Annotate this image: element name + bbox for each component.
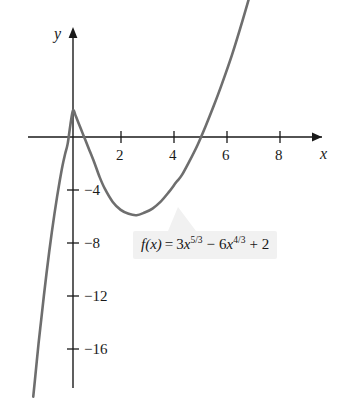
equation-plus: + (249, 236, 257, 252)
x-tick-label-6: 6 (222, 148, 230, 163)
callout-pointer (168, 207, 196, 231)
equation-fx: f(x) (141, 236, 162, 252)
plot-canvas (0, 0, 342, 403)
equation-term2-exponent: 4/3 (233, 235, 245, 245)
equation-equals: = (165, 236, 173, 252)
equation-callout: f(x)=3x5/3−6x4/3+2 (133, 231, 277, 259)
y-tick-label-minus8: −8 (84, 236, 100, 251)
x-tick-label-8: 8 (275, 148, 283, 163)
y-tick-label-minus4: −4 (84, 183, 100, 198)
x-tick-label-4: 4 (169, 148, 177, 163)
equation-term1-coef: 3 (176, 236, 184, 252)
y-tick-label-minus12: −12 (84, 289, 107, 304)
equation-term1-exponent: 5/3 (190, 235, 202, 245)
x-axis-label: x (320, 146, 327, 162)
function-graph-figure: 2 4 6 8 −4 −8 −12 −16 y x f(x)=3x5/3−6x4… (0, 0, 342, 403)
y-tick-label-minus16: −16 (84, 342, 107, 357)
x-tick-label-2: 2 (116, 148, 124, 163)
function-curve (33, 0, 338, 397)
x-axis (28, 131, 322, 143)
y-axis (67, 27, 79, 388)
y-axis-arrowhead (69, 27, 78, 38)
equation-term2-coef: 6 (219, 236, 227, 252)
equation-minus: − (207, 236, 215, 252)
equation-constant: 2 (262, 236, 270, 252)
x-axis-arrowhead (312, 133, 322, 142)
y-axis-label: y (54, 26, 61, 42)
